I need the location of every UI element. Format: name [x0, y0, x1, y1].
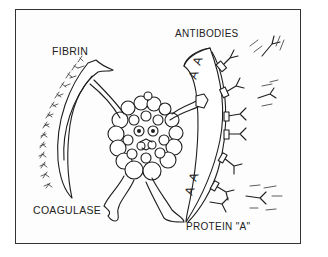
right-shield: A A A A [182, 48, 226, 222]
staph-illustration: A A A A [0, 0, 328, 257]
label-protein-a: PROTEIN "A" [186, 221, 250, 232]
bacteria-cluster [108, 92, 183, 180]
label-antibodies: ANTIBODIES [175, 28, 239, 39]
label-fibrin: FIBRIN [52, 45, 88, 57]
left-shield [58, 60, 113, 198]
legs [104, 176, 184, 222]
free-antibodies [246, 36, 284, 210]
label-coagulase: COAGULASE [33, 204, 101, 216]
